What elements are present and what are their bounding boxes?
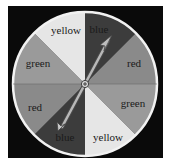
sector-label-yellow-bottom: yellow xyxy=(93,131,123,143)
sector-label-green-right: green xyxy=(121,97,146,109)
spinner: blue red green yellow blue red green yel… xyxy=(0,0,169,166)
sector-label-blue-top: blue xyxy=(90,23,109,35)
sector-label-green-left: green xyxy=(26,57,51,69)
sector-label-yellow-top: yellow xyxy=(51,24,81,36)
sector-label-blue-bottom: blue xyxy=(56,131,75,143)
sector-label-red-left: red xyxy=(28,101,43,113)
sector-label-red-right: red xyxy=(127,57,142,69)
